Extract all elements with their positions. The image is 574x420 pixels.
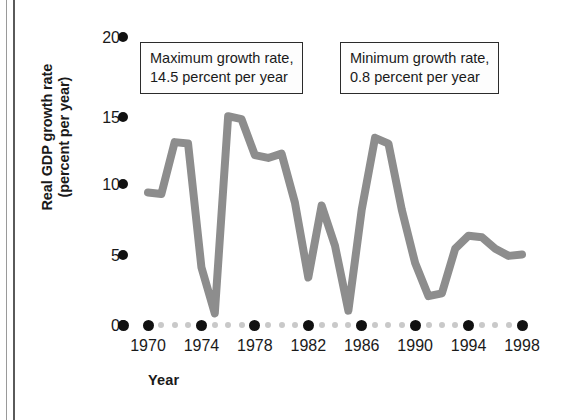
chart-figure: Real GDP growth rate (percent per year) … [0,0,574,420]
plot-area [0,0,574,420]
gdp-growth-line [148,116,522,313]
